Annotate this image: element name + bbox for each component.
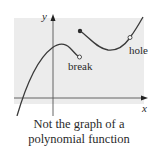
y-axis-arrow-icon	[51, 14, 56, 21]
x-axis-label: x	[141, 102, 147, 114]
caption-line-1: Not the graph of a	[0, 117, 158, 132]
hole-label: hole	[129, 44, 148, 56]
hole-open-point	[128, 36, 132, 40]
break-label: break	[68, 60, 93, 72]
break-open-point	[78, 55, 82, 59]
x-axis-arrow-icon	[141, 96, 148, 101]
function-graph: y x break hole	[0, 0, 158, 116]
figure-caption: Not the graph of a polynomial function	[0, 117, 158, 147]
caption-line-2: polynomial function	[0, 132, 158, 147]
y-axis-label: y	[41, 10, 47, 22]
